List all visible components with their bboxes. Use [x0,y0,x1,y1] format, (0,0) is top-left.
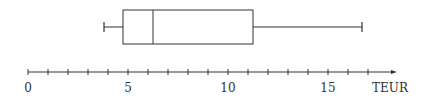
tick-label: 5 [124,81,132,95]
boxplot-chart: 051015TEUR [0,0,434,100]
tick-label: 0 [24,81,32,95]
box-plot [104,10,362,44]
tick-label: 10 [220,81,235,95]
x-axis: 051015TEUR [24,69,409,95]
tick-label: 15 [320,81,335,95]
axis-arrow-icon [391,70,397,74]
axis-unit-label: TEUR [372,81,409,95]
iqr-box [123,10,253,44]
